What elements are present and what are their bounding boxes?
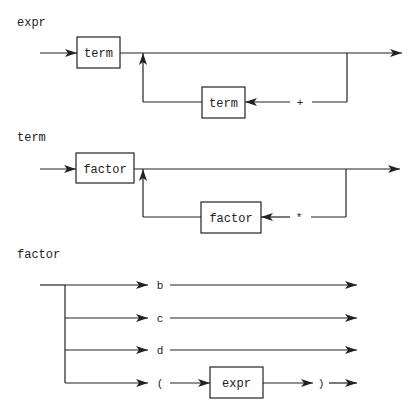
expr-box-label: expr [222,377,251,391]
symbol-close-paren: ) [318,378,325,390]
factor-box-label: factor [83,163,126,177]
plus-symbol: + [297,97,304,109]
term-title: term [17,131,46,145]
factor-diagram: factor b c d ( expr ) [17,248,357,398]
term-box-label: term [84,47,113,61]
expr-title: expr [17,16,46,30]
loop-factor-label: factor [209,212,252,226]
factor-title: factor [17,248,60,262]
syntax-diagrams: expr term + term term factor * factor fa… [0,0,414,417]
symbol-b: b [157,280,164,292]
term-diagram: term factor * factor [17,131,400,233]
star-symbol: * [296,212,303,224]
symbol-d: d [157,345,164,357]
expr-diagram: expr term + term [17,16,402,118]
symbol-c: c [157,313,164,325]
loop-term-label: term [209,97,238,111]
symbol-open-paren: ( [157,378,164,390]
